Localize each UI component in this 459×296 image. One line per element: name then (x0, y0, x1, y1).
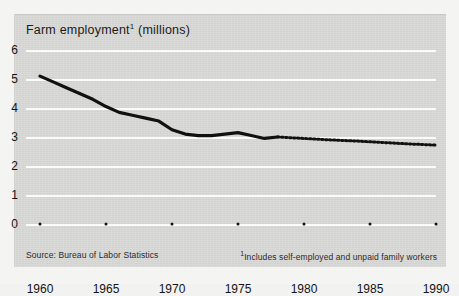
chart-title: Farm employment1 (millions) (26, 22, 190, 37)
y-axis-tick-label: 6 (4, 43, 18, 57)
y-axis-tick-label: 2 (4, 159, 18, 173)
footnote-text: Includes self-employed and unpaid family… (244, 252, 437, 262)
data-series-line (278, 137, 436, 145)
y-axis-tick-label: 5 (4, 72, 18, 86)
data-series-line (40, 76, 278, 138)
x-axis-tick-label: 1970 (159, 282, 186, 296)
y-axis-tick-label: 0 (4, 217, 18, 231)
y-axis-tick-label: 4 (4, 101, 18, 115)
x-axis-tick-label: 1965 (93, 282, 120, 296)
x-axis-tick-label: 1985 (357, 282, 384, 296)
source-note: Source: Bureau of Labor Statistics (26, 250, 158, 260)
x-axis-tick-label: 1975 (225, 282, 252, 296)
x-axis-tick-label: 1980 (291, 282, 318, 296)
plot-area: 0123456 1960196519701975198019851990 (40, 50, 436, 224)
y-axis-tick-label: 3 (4, 130, 18, 144)
x-axis-tick-label: 1960 (27, 282, 54, 296)
chart-title-footnote-marker: 1 (130, 22, 135, 31)
data-series-layer (40, 50, 436, 224)
footnote: 1Includes self-employed and unpaid famil… (240, 250, 437, 262)
y-axis-tick-label: 1 (4, 188, 18, 202)
chart-title-unit: (millions) (138, 23, 190, 37)
chart-title-text: Farm employment (26, 23, 130, 37)
gridline (26, 224, 436, 226)
x-axis-tick-label: 1990 (423, 282, 450, 296)
